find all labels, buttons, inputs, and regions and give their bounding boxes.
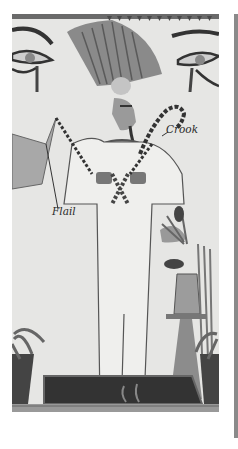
osiris-illustration: Crook Flail (12, 14, 219, 427)
side-bar (234, 14, 238, 438)
crook-label: Crook (166, 124, 198, 135)
flail-label: Flail (52, 206, 76, 217)
osiris-painting (12, 14, 219, 427)
